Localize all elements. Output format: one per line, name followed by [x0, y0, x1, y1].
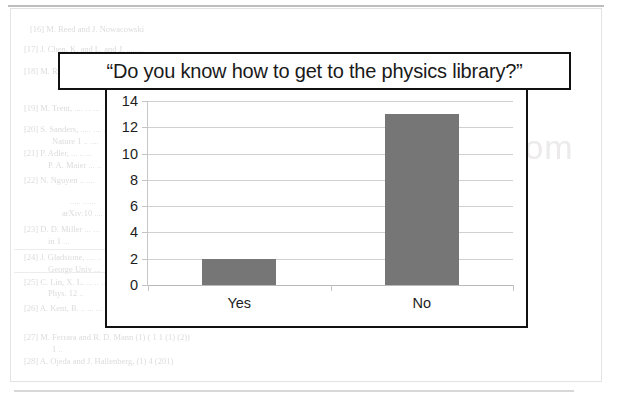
- chart-plot-wrapper: 02468101214YesNo: [105, 65, 528, 328]
- chart-plot-area: 02468101214YesNo: [148, 101, 513, 285]
- x-axis-label-yes: Yes: [227, 295, 251, 311]
- y-axis-tick: [142, 206, 148, 207]
- page-bottom-rule: [14, 390, 574, 392]
- y-axis-label: 0: [130, 277, 138, 293]
- x-axis-tick: [331, 285, 332, 291]
- y-axis-label: 8: [130, 172, 138, 188]
- x-axis-label-no: No: [412, 295, 431, 311]
- y-axis-label: 14: [122, 93, 138, 109]
- chart-title-box: “Do you know how to get to the physics l…: [58, 52, 571, 90]
- y-axis-label: 6: [130, 198, 138, 214]
- bar-yes: [202, 259, 276, 285]
- y-axis-label: 12: [122, 119, 138, 135]
- page-top-rule: [8, 5, 604, 7]
- chart-title: “Do you know how to get to the physics l…: [106, 60, 522, 83]
- y-axis-label: 10: [122, 146, 138, 162]
- screenshot-page: [16] M. Reed and J. Nowacowski[17] J. Ch…: [0, 0, 618, 397]
- y-axis-label: 4: [130, 224, 138, 240]
- y-axis-tick: [142, 101, 148, 102]
- y-axis-tick: [142, 154, 148, 155]
- y-axis-tick: [142, 259, 148, 260]
- y-gridline: [148, 101, 513, 102]
- x-axis-tick: [513, 285, 514, 291]
- y-axis-tick: [142, 127, 148, 128]
- x-axis-tick: [148, 285, 149, 291]
- bar-no: [385, 114, 459, 285]
- y-axis-label: 2: [130, 251, 138, 267]
- y-axis-line: [147, 101, 148, 285]
- y-axis-tick: [142, 180, 148, 181]
- y-axis-tick: [142, 232, 148, 233]
